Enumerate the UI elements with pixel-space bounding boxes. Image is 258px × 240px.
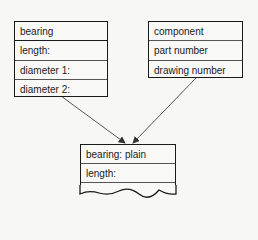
- entity-bearing: bearing length: diameter 1: diameter 2:: [14, 21, 108, 97]
- arrow-component-to-plain: [133, 77, 197, 143]
- arrow-bearing-to-plain: [61, 96, 125, 143]
- entity-component: component part number drawing number: [148, 21, 243, 78]
- entity-bearing-plain: bearing: plain length:: [80, 144, 176, 188]
- entity-title: bearing: plain: [81, 145, 175, 164]
- attribute-diameter-1: diameter 1:: [15, 60, 107, 79]
- attribute-length: length:: [81, 164, 175, 183]
- torn-edge: [79, 185, 178, 199]
- attribute-drawing-number: drawing number: [149, 60, 242, 79]
- attribute-diameter-2: diameter 2:: [15, 79, 107, 98]
- attribute-part-number: part number: [149, 41, 242, 60]
- attribute-length: length:: [15, 41, 107, 60]
- entity-title: component: [149, 22, 242, 41]
- entity-title: bearing: [15, 22, 107, 41]
